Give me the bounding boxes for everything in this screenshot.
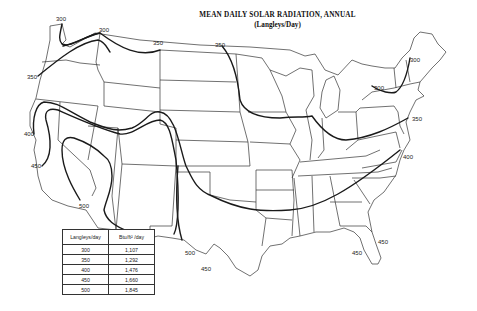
isoline-450-west: [42, 109, 178, 234]
cell-btu: 1,107: [109, 245, 155, 255]
label-va-400: 400: [403, 154, 414, 160]
label-nj-350: 350: [412, 116, 423, 122]
cell-langleys: 450: [63, 275, 109, 285]
header-langleys: Langleys/day: [63, 230, 109, 245]
label-ny-300: 300: [374, 85, 385, 91]
header-btu: Btu/ft² /day: [109, 230, 155, 245]
label-tx-450: 450: [201, 266, 212, 272]
table-row: 300 1,107: [63, 245, 155, 255]
cell-langleys: 300: [63, 245, 109, 255]
label-fl-450-east: 450: [378, 239, 389, 245]
label-ca-450: 450: [31, 163, 42, 169]
cell-btu: 1,476: [109, 265, 155, 275]
cell-btu: 1,292: [109, 255, 155, 265]
table-row: 400 1,476: [63, 265, 155, 275]
cell-langleys: 350: [63, 255, 109, 265]
map-subtitle: (Langleys/Day): [0, 21, 477, 29]
label-az-500: 500: [79, 203, 90, 209]
table-header-row: Langleys/day Btu/ft² /day: [63, 230, 155, 245]
cell-btu: 1,845: [109, 285, 155, 295]
label-tx-500: 500: [185, 250, 196, 256]
table-row: 500 1,845: [63, 285, 155, 295]
label-nd-350: 350: [215, 42, 226, 48]
isoline-350-mid: [222, 46, 408, 140]
label-fl-450-west: 450: [352, 250, 363, 256]
conversion-table: Langleys/day Btu/ft² /day 300 1,107 350 …: [62, 229, 155, 295]
cell-langleys: 400: [63, 265, 109, 275]
table-row: 450 1,660: [63, 275, 155, 285]
isolines: [33, 24, 410, 240]
table-row: 350 1,292: [63, 255, 155, 265]
cell-btu: 1,660: [109, 275, 155, 285]
label-vt-300: 300: [410, 57, 421, 63]
label-or-350: 350: [27, 74, 38, 80]
map-title: MEAN DAILY SOLAR RADIATION, ANNUAL: [0, 11, 477, 19]
label-ca-400: 400: [24, 131, 35, 137]
cell-langleys: 500: [63, 285, 109, 295]
label-mt-350: 350: [153, 40, 164, 46]
